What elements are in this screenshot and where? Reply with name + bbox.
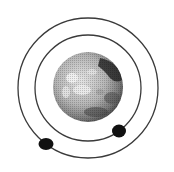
moon-inner	[112, 125, 126, 138]
moon-outer	[39, 138, 54, 150]
planet	[53, 52, 123, 122]
planet-orbit-diagram	[0, 0, 174, 172]
